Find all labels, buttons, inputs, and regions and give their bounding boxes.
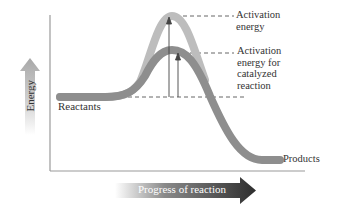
label-line: Activation (237, 45, 281, 57)
label-line: Activation (236, 9, 280, 21)
activation-energy-label: Activation energy (236, 9, 280, 32)
reactants-label: Reactants (58, 101, 101, 113)
activation-arrows (167, 17, 181, 97)
label-line: catalyzed (237, 68, 281, 80)
energy-diagram (0, 0, 340, 214)
x-axis-label: Progress of reaction (138, 184, 226, 196)
y-axis-label: Energy (25, 76, 37, 116)
activation-energy-catalyzed-label: Activation energy for catalyzed reaction (237, 45, 281, 91)
label-line: energy for (237, 57, 281, 69)
products-label: Products (283, 153, 320, 165)
dashed-guides (100, 16, 245, 97)
label-line: reaction (237, 80, 281, 92)
label-line: energy (236, 21, 280, 33)
